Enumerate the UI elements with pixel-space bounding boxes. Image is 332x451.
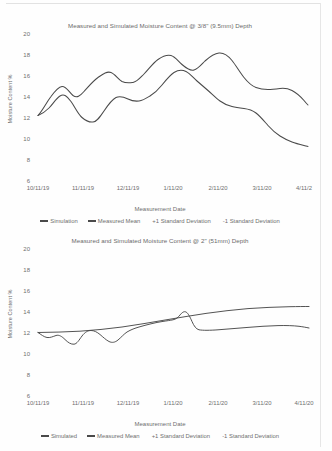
legend-line-icon xyxy=(40,220,48,222)
x-tick-1: 11/11/19 xyxy=(72,400,94,406)
legend-label: -1 Standard Deviation xyxy=(222,433,279,439)
x-tick-1: 11/11/19 xyxy=(72,185,94,191)
x-tick-2: 12/11/19 xyxy=(117,400,140,406)
legend-line-icon xyxy=(88,220,96,222)
series-line-simulation xyxy=(38,53,308,116)
legend-label: +1 Standard Deviation xyxy=(152,218,210,224)
chart-title: Measured and Simulated Moisture Content … xyxy=(0,237,320,244)
plot-area: Moisture Content % 20 18 16 14 12 10 8 6… xyxy=(0,249,320,409)
legend-item-plus-1-sd[interactable]: +1 Standard Deviation xyxy=(150,433,210,439)
legend-item-plus-1-sd[interactable]: +1 Standard Deviation xyxy=(150,218,210,224)
chart-moisture-9-5mm: Measured and Simulated Moisture Content … xyxy=(0,22,320,227)
page-border-right xyxy=(320,3,321,447)
plot-lines xyxy=(0,249,320,409)
x-tick-5: 3/11/20 xyxy=(252,185,271,191)
legend-item-simulated[interactable]: Simulated xyxy=(41,433,77,439)
x-axis-label: Measurement Date xyxy=(0,206,320,212)
legend-label: +1 Standard Deviation xyxy=(152,433,210,439)
legend-line-icon xyxy=(87,435,95,437)
legend-item-simulation[interactable]: Simulation xyxy=(40,218,78,224)
x-tick-3: 1/11/20 xyxy=(163,185,182,191)
legend-item-measured-mean[interactable]: Measured Mean xyxy=(87,433,140,439)
legend-label: -1 Standard Deviation xyxy=(223,218,280,224)
x-tick-6: 4/11/20 xyxy=(294,400,313,406)
x-tick-4: 2/11/20 xyxy=(208,400,227,406)
figure-page: Measured and Simulated Moisture Content … xyxy=(0,0,332,451)
series-line-measured-mean xyxy=(38,312,309,345)
legend-item-minus-1-sd[interactable]: -1 Standard Deviation xyxy=(221,218,280,224)
page-border-top xyxy=(6,3,320,4)
chart-title: Measured and Simulated Moisture Content … xyxy=(0,22,320,29)
x-tick-0: 10/11/19 xyxy=(27,185,50,191)
plot-area: Moisture Content % 20 18 16 14 12 10 8 6… xyxy=(0,34,320,194)
x-tick-3: 1/11/20 xyxy=(163,400,182,406)
series-line-measured-mean xyxy=(38,70,308,146)
x-tick-6: 4/11/2 xyxy=(296,185,312,191)
chart-moisture-51mm: Measured and Simulated Moisture Content … xyxy=(0,237,320,442)
legend-line-icon xyxy=(41,435,49,437)
chart-legend: Simulation Measured Mean +1 Standard Dev… xyxy=(0,215,320,227)
legend-label: Measured Mean xyxy=(97,433,140,439)
legend-item-measured-mean[interactable]: Measured Mean xyxy=(88,218,141,224)
chart-legend: Simulated Measured Mean +1 Standard Devi… xyxy=(0,430,320,442)
x-tick-2: 12/11/19 xyxy=(117,185,140,191)
x-tick-5: 3/11/20 xyxy=(252,400,271,406)
x-tick-4: 2/11/20 xyxy=(208,185,227,191)
legend-label: Simulation xyxy=(50,218,78,224)
legend-label: Simulated xyxy=(51,433,77,439)
legend-item-minus-1-sd[interactable]: -1 Standard Deviation xyxy=(220,433,279,439)
legend-label: Measured Mean xyxy=(98,218,141,224)
x-tick-0: 10/11/19 xyxy=(27,400,50,406)
x-axis-label: Measurement Date xyxy=(0,421,320,427)
plot-lines xyxy=(0,34,320,194)
